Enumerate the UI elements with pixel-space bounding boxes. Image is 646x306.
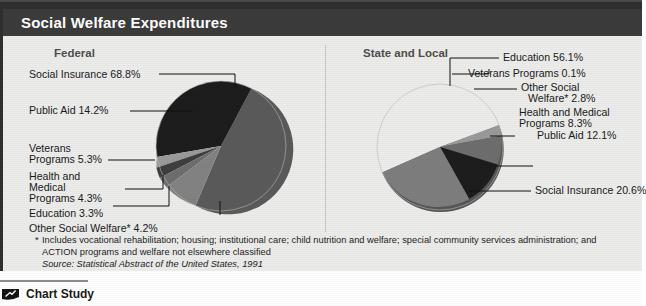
chart-area: Federal State and Local (3, 36, 642, 271)
panel-header-bar: Social Welfare Expenditures (3, 9, 642, 36)
top-dark-strip (0, 0, 642, 9)
caption-rule (0, 280, 88, 282)
chart-panel: Social Welfare Expenditures Federal Stat… (0, 9, 642, 271)
footnote-block: * Includes vocational rehabilitation; ho… (35, 235, 621, 258)
page-title: Social Welfare Expenditures (21, 14, 228, 31)
label-state-veterans: Veterans Programs 0.1% (468, 68, 586, 80)
label-federal-social-insurance: Social Insurance 68.8% (29, 69, 140, 81)
label-state-social-insurance: Social Insurance 20.6% (535, 185, 646, 197)
caption-label: Chart Study (26, 287, 94, 301)
footnote-marker: * (35, 235, 39, 247)
chart-study-icon (2, 288, 19, 301)
federal-pie (156, 81, 293, 214)
label-state-education: Education 56.1% (503, 52, 583, 64)
top-strip-highlight (0, 0, 642, 2)
state-local-pie (377, 84, 504, 212)
label-federal-veterans-line2: Programs 5.3% (29, 154, 102, 166)
label-federal-health-line3: Programs 4.3% (29, 193, 102, 205)
label-federal-other-welfare: Other Social Welfare* 4.2% (29, 223, 158, 235)
label-federal-public-aid: Public Aid 14.2% (29, 105, 109, 117)
label-federal-education: Education 3.3% (29, 208, 103, 220)
label-state-public-aid: Public Aid 12.1% (537, 130, 617, 142)
label-state-health-line2: Programs 8.3% (519, 118, 592, 130)
leader-health-medical (125, 175, 163, 189)
label-state-other-welfare-line2: Welfare* 2.8% (528, 93, 596, 105)
footnote-text: Includes vocational rehabilitation; hous… (42, 235, 621, 258)
source-line: Source: Statistical Abstract of the Unit… (42, 259, 263, 269)
